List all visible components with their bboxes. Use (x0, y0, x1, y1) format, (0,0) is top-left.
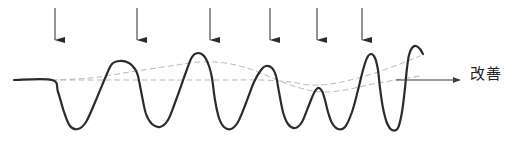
kaizen-wave-figure: 改善 (0, 0, 518, 146)
axis-label-kaizen: 改善 (470, 66, 501, 82)
process-signal (14, 46, 423, 131)
process-signal-group (14, 46, 423, 131)
intervention-arrow-group (55, 8, 362, 40)
figure-canvas (0, 0, 518, 146)
